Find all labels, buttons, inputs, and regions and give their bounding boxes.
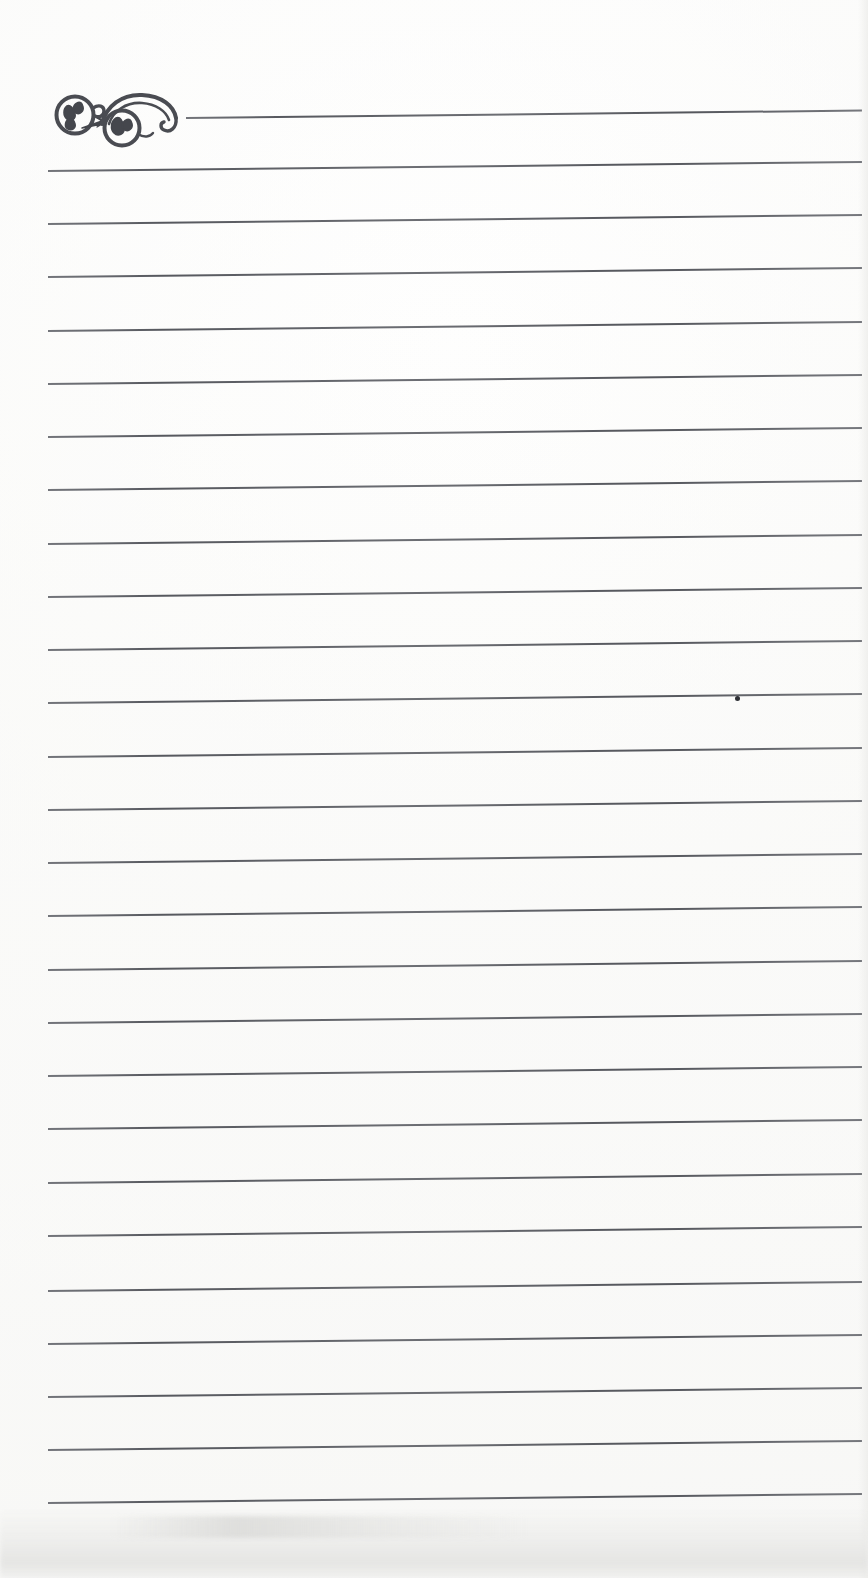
ruled-line (48, 800, 862, 811)
ruled-line (48, 161, 862, 172)
ruled-line (48, 1226, 862, 1237)
ruled-lines-group (0, 0, 868, 1578)
ruled-line (48, 1387, 862, 1398)
ruled-line (48, 960, 862, 971)
ruled-line (48, 267, 862, 278)
ruled-line (48, 587, 862, 598)
ruled-line (48, 480, 862, 491)
notepaper-page (0, 0, 868, 1578)
ruled-line (48, 534, 862, 545)
ink-dot-artifact (735, 696, 740, 701)
ruled-line (48, 214, 862, 225)
ruled-line (48, 1334, 862, 1345)
ruled-line (48, 321, 862, 332)
ruled-line (48, 1066, 862, 1077)
ruled-line (48, 1119, 862, 1130)
ruled-line (48, 374, 862, 385)
ruled-line (48, 747, 862, 758)
ruled-line (48, 1493, 862, 1504)
ruled-line (48, 906, 862, 917)
ruled-line (48, 1173, 862, 1184)
ruled-line (48, 640, 862, 651)
ruled-line (48, 427, 862, 438)
ruled-line (48, 1013, 862, 1024)
ruled-line (48, 853, 862, 864)
ruled-line (186, 110, 862, 119)
ruled-line (48, 1281, 862, 1292)
ruled-line (48, 1440, 862, 1451)
